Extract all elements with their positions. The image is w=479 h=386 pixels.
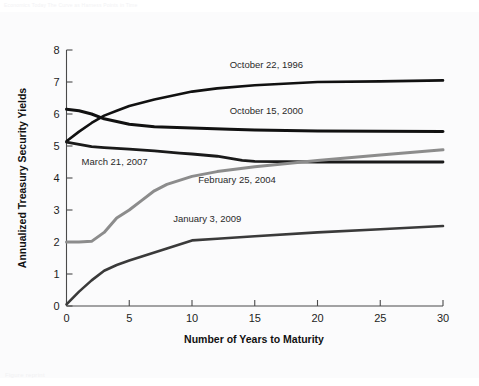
x-axis-title: Number of Years to Maturity [184,333,324,345]
page-header-note: Economics Today The Curve as Harness Poi… [0,0,479,12]
y-tick-label: 4 [53,172,59,184]
series-line [67,226,444,304]
page-footer-note: Figure reprint [5,372,45,378]
series-annotation-label: February 25, 2004 [198,174,276,185]
y-tick-label: 7 [53,76,59,88]
y-axis-title: Annualized Treasury Security Yields [16,88,28,268]
y-tick-label: 1 [53,268,59,280]
y-tick-label: 5 [53,140,59,152]
y-axis-ticks: 012345678 [53,44,72,312]
y-tick-label: 0 [53,300,59,312]
x-tick-label: 20 [311,312,323,324]
x-tick-label: 5 [126,312,132,324]
y-tick-label: 6 [53,108,59,120]
x-axis-ticks: 051015202530 [63,300,449,324]
series-annotation-label: October 15, 2000 [230,105,303,116]
yield-curve-chart: 012345678 051015202530 October 22, 1996O… [0,12,479,378]
series-annotation-label: January 3, 2009 [173,213,241,224]
series-annotation-label: October 22, 1996 [230,59,303,70]
y-tick-label: 3 [53,204,59,216]
x-tick-label: 30 [437,312,449,324]
x-tick-label: 0 [63,312,69,324]
y-tick-label: 8 [53,44,59,56]
figure-panel: 012345678 051015202530 October 22, 1996O… [0,12,479,378]
series-annotation-label: March 21, 2007 [82,156,148,167]
x-tick-label: 25 [374,312,386,324]
x-tick-label: 15 [249,312,261,324]
y-tick-label: 2 [53,236,59,248]
x-tick-label: 10 [186,312,198,324]
